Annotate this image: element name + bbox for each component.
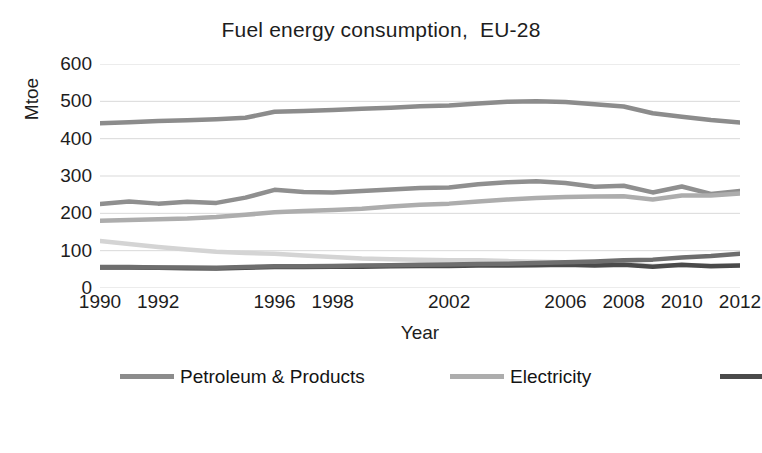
y-tick-label: 200 bbox=[34, 203, 92, 222]
y-axis-tick-labels: 6005004003002001000 bbox=[30, 64, 92, 288]
x-tick-label: 2010 bbox=[652, 292, 712, 313]
legend-label: Petroleum & Products bbox=[180, 367, 365, 386]
x-axis-tick-labels: 199019921996199820022006200820102012 bbox=[100, 292, 740, 318]
legend-item[interactable]: Petroleum & Products bbox=[120, 364, 450, 388]
legend-swatch-icon bbox=[720, 374, 762, 379]
legend-label: Electricity bbox=[510, 367, 591, 386]
legend-item[interactable]: Electricity bbox=[450, 364, 720, 388]
series-line-petroleum-products bbox=[100, 101, 740, 123]
x-tick-label: 2002 bbox=[419, 292, 479, 313]
series-line-electricity bbox=[100, 194, 740, 221]
legend-swatch-icon bbox=[450, 374, 504, 379]
x-tick-label: 2008 bbox=[594, 292, 654, 313]
x-tick-label: 1990 bbox=[70, 292, 130, 313]
legend-item[interactable]: Derived Heat bbox=[720, 364, 762, 388]
y-tick-label: 300 bbox=[34, 166, 92, 185]
chart-title: Fuel energy consumption, EU-28 bbox=[0, 18, 762, 42]
y-tick-label: 100 bbox=[34, 241, 92, 260]
series-line-solid-fuels bbox=[100, 241, 740, 266]
plot-area bbox=[100, 64, 740, 288]
chart-figure: Fuel energy consumption, EU-28 Mtoe 6005… bbox=[0, 0, 762, 453]
x-tick-label: 2012 bbox=[710, 292, 762, 313]
y-tick-label: 400 bbox=[34, 129, 92, 148]
x-tick-label: 1992 bbox=[128, 292, 188, 313]
y-tick-label: 600 bbox=[34, 54, 92, 73]
x-tick-label: 2006 bbox=[535, 292, 595, 313]
legend-swatch-icon bbox=[120, 374, 174, 379]
series-lines-svg bbox=[100, 64, 740, 288]
y-tick-label: 500 bbox=[34, 91, 92, 110]
x-tick-label: 1998 bbox=[303, 292, 363, 313]
x-axis-title: Year bbox=[100, 322, 740, 344]
x-tick-label: 1996 bbox=[245, 292, 305, 313]
chart-legend: Petroleum & ProductsElectricityDerived H… bbox=[120, 364, 720, 388]
